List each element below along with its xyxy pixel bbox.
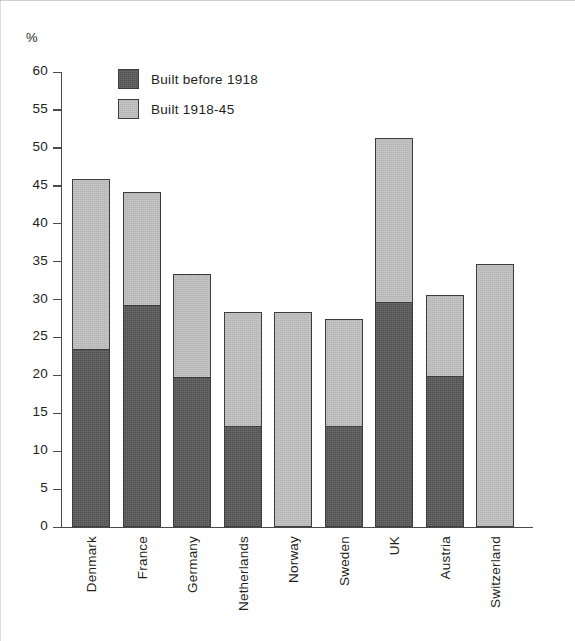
segment-built-1918-45 xyxy=(274,312,312,527)
bar-germany xyxy=(173,274,211,527)
y-tick-mark xyxy=(53,337,61,338)
segment-built-1918-45 xyxy=(325,319,363,427)
x-label-germany: Germany xyxy=(185,536,199,593)
plot-area xyxy=(62,72,532,527)
light-swatch-icon xyxy=(118,99,139,119)
y-tick-mark xyxy=(53,489,61,490)
x-label-uk: UK xyxy=(387,536,401,555)
segment-built-1918-45 xyxy=(375,138,413,303)
segment-built-before-1918 xyxy=(426,377,464,527)
bar-sweden xyxy=(325,319,363,527)
segment-built-1918-45 xyxy=(123,192,161,307)
segment-built-before-1918 xyxy=(173,378,211,527)
x-label-norway: Norway xyxy=(286,536,300,583)
bar-norway xyxy=(274,312,312,527)
bar-uk xyxy=(375,138,413,527)
x-label-austria: Austria xyxy=(438,536,452,579)
segment-built-1918-45 xyxy=(173,274,211,377)
bar-austria xyxy=(426,295,464,527)
bar-denmark xyxy=(72,179,110,527)
dark-swatch-icon xyxy=(118,69,139,89)
segment-built-before-1918 xyxy=(224,427,262,527)
segment-built-1918-45 xyxy=(224,312,262,427)
bar-switzerland xyxy=(476,264,514,527)
y-tick-mark xyxy=(53,299,61,300)
y-tick-mark xyxy=(53,413,61,414)
bar-chart: % 605550454035302520151050 DenmarkFrance… xyxy=(0,0,575,641)
legend: Built before 1918 Built 1918-45 xyxy=(118,67,258,127)
legend-item-built-1918-45: Built 1918-45 xyxy=(118,97,258,121)
scan-edge-left xyxy=(0,0,1,641)
legend-label-built-before-1918: Built before 1918 xyxy=(151,72,258,87)
bar-france xyxy=(123,192,161,527)
y-tick-mark xyxy=(53,261,61,262)
segment-built-before-1918 xyxy=(375,303,413,527)
segment-built-before-1918 xyxy=(123,306,161,527)
x-label-switzerland: Switzerland xyxy=(488,536,502,608)
y-tick-mark xyxy=(53,223,61,224)
segment-built-before-1918 xyxy=(325,427,363,527)
y-tick-mark xyxy=(53,72,61,73)
segment-built-1918-45 xyxy=(476,264,514,527)
y-tick-mark xyxy=(53,147,61,148)
legend-label-built-1918-45: Built 1918-45 xyxy=(151,102,234,117)
bar-netherlands xyxy=(224,312,262,527)
y-tick-mark xyxy=(53,109,61,110)
segment-built-before-1918 xyxy=(72,350,110,527)
y-axis-unit-label: % xyxy=(26,30,38,45)
x-label-sweden: Sweden xyxy=(337,536,351,586)
y-tick-mark xyxy=(53,185,61,186)
x-label-netherlands: Netherlands xyxy=(236,536,250,611)
y-tick-mark xyxy=(53,375,61,376)
x-axis-line xyxy=(61,527,533,528)
x-label-denmark: Denmark xyxy=(84,536,98,592)
scan-edge-top xyxy=(0,0,575,1)
y-tick-mark xyxy=(53,451,61,452)
legend-item-built-before-1918: Built before 1918 xyxy=(118,67,258,91)
x-label-france: France xyxy=(135,536,149,579)
segment-built-1918-45 xyxy=(72,179,110,350)
segment-built-1918-45 xyxy=(426,295,464,377)
y-tick-mark xyxy=(53,527,61,528)
